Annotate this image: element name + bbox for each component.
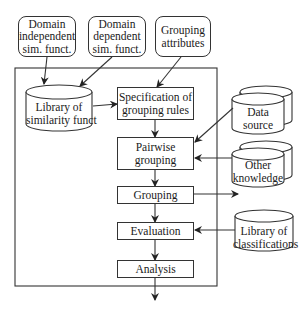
evaluation-box: Evaluation — [117, 222, 194, 240]
label-line: independent — [19, 30, 75, 43]
label-line: sim. funct. — [19, 43, 75, 56]
pairwise-grouping-box: Pairwise grouping — [117, 137, 194, 170]
label-line: Domain — [93, 18, 142, 31]
other-knowledge-label: Other knowledge — [230, 159, 286, 184]
analysis-box: Analysis — [117, 260, 194, 278]
arrow-datasource-to-pairwise — [195, 108, 233, 142]
specification-box: Specification of grouping rules — [117, 87, 194, 120]
arrow-indep-to-library — [44, 57, 47, 84]
data-source-label: Data source — [232, 106, 284, 131]
library-similarity-label: Library of similarity funct — [26, 101, 92, 126]
input-domain-independent: Domain independent sim. funct. — [18, 16, 76, 57]
label-line: Grouping — [161, 24, 205, 37]
label-line: Domain — [19, 18, 75, 31]
arrow-dep-to-library — [80, 57, 112, 86]
arrow-library-to-spec — [93, 104, 117, 106]
arrow-attr-to-spec — [157, 57, 181, 87]
input-grouping-attributes: Grouping attributes — [155, 16, 211, 57]
grouping-box: Grouping — [117, 186, 194, 204]
label-line: dependent — [93, 30, 142, 43]
library-classifications-label: Library of classifications — [233, 225, 295, 250]
label-line: attributes — [161, 37, 205, 50]
input-domain-dependent: Domain dependent sim. funct. — [88, 16, 146, 57]
label-line: sim. funct. — [93, 43, 142, 56]
